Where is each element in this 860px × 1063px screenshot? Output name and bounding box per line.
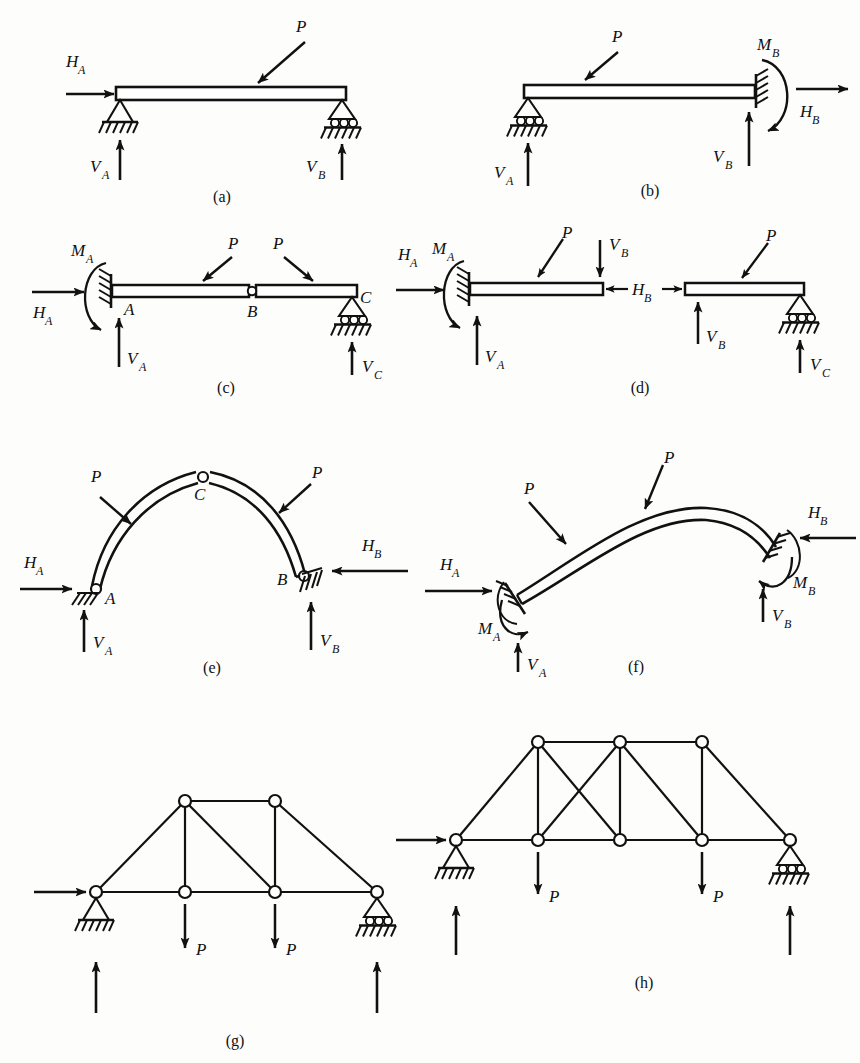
label-VA-sub-e: A bbox=[104, 644, 113, 658]
label-MA-sub-d: A bbox=[446, 250, 455, 264]
caption-f: (f) bbox=[628, 658, 644, 676]
label-load-p-d-1: P bbox=[561, 223, 572, 242]
label-joint-A-c: A bbox=[123, 300, 135, 319]
label-VA-sub-c: A bbox=[138, 360, 147, 374]
label-load-p-c-2: P bbox=[272, 234, 283, 253]
label-MB-b: M bbox=[756, 35, 772, 54]
label-MA-sub-f: A bbox=[492, 630, 501, 644]
caption-h: (h) bbox=[635, 974, 654, 992]
label-MB-f: M bbox=[792, 573, 808, 592]
caption-c: (c) bbox=[217, 379, 235, 397]
label-load-p-h-2: P bbox=[712, 887, 723, 906]
label-HB-sub-b: B bbox=[812, 113, 820, 127]
label-VA-sub-f: A bbox=[538, 666, 547, 680]
beam-member-d-left bbox=[470, 283, 603, 295]
label-joint-B-c: B bbox=[247, 302, 258, 321]
crown-hinge-e bbox=[198, 472, 208, 482]
label-HB-sub-d: B bbox=[644, 291, 652, 305]
label-HA-sub-c: A bbox=[44, 314, 53, 328]
label-load-p-a: P bbox=[295, 17, 306, 36]
label-C-e: C bbox=[194, 485, 206, 504]
label-load-p-f-1: P bbox=[523, 479, 534, 498]
label-VC-sub-c: C bbox=[374, 368, 383, 382]
caption-a: (a) bbox=[213, 188, 231, 206]
caption-e: (e) bbox=[203, 659, 221, 677]
label-HA-sub-a: A bbox=[77, 63, 86, 77]
label-load-p-d-2: P bbox=[765, 226, 776, 245]
label-MA-f: M bbox=[477, 619, 493, 638]
figure-sheet: P H A V A V B (a) bbox=[0, 0, 860, 1063]
beam-member-b bbox=[524, 85, 755, 98]
label-VB-sub-f: B bbox=[784, 617, 792, 631]
label-load-p-h-1: P bbox=[548, 887, 559, 906]
label-load-p-e-2: P bbox=[311, 463, 322, 482]
label-A-e: A bbox=[104, 589, 116, 608]
label-MA-d: M bbox=[431, 239, 447, 258]
label-load-p-g-2: P bbox=[285, 940, 296, 959]
label-HA-sub-d: A bbox=[409, 256, 418, 270]
label-HB-sub-e: B bbox=[374, 547, 382, 561]
structural-diagram-canvas: P H A V A V B (a) bbox=[0, 0, 860, 1063]
label-load-p-c-1: P bbox=[227, 234, 238, 253]
label-VB-sub-a: B bbox=[318, 168, 326, 182]
label-VB-sub-b: B bbox=[725, 158, 733, 172]
label-VC-sub-d: C bbox=[822, 366, 831, 380]
label-VB-sub-e: B bbox=[332, 642, 340, 656]
label-MB-sub-f: B bbox=[808, 584, 816, 598]
label-load-p-g-1: P bbox=[195, 940, 206, 959]
label-load-p-f-2: P bbox=[663, 448, 674, 467]
beam-member-c bbox=[112, 285, 357, 297]
label-MA-c: M bbox=[70, 241, 86, 260]
caption-b: (b) bbox=[641, 182, 660, 200]
label-VA-sub-a: A bbox=[101, 168, 110, 182]
label-MB-sub-b: B bbox=[772, 46, 780, 60]
caption-d: (d) bbox=[631, 379, 650, 397]
label-HA-sub-e: A bbox=[35, 564, 44, 578]
label-load-p-e-1: P bbox=[90, 467, 101, 486]
label-B-e: B bbox=[277, 570, 288, 589]
beam-member-d-right bbox=[685, 283, 804, 295]
label-HA-sub-f: A bbox=[451, 566, 460, 580]
label-MA-sub-c: A bbox=[85, 252, 94, 266]
label-VA-sub-b: A bbox=[505, 174, 514, 188]
caption-g: (g) bbox=[226, 1032, 245, 1050]
label-load-p-b: P bbox=[611, 27, 622, 46]
label-joint-C-c: C bbox=[360, 288, 372, 307]
label-VB-bottom-sub-d: B bbox=[718, 338, 726, 352]
label-VB-top-sub-d: B bbox=[621, 246, 629, 260]
label-HB-sub-f: B bbox=[820, 514, 828, 528]
label-VA-sub-d: A bbox=[496, 358, 505, 372]
beam-member-a bbox=[116, 87, 346, 100]
